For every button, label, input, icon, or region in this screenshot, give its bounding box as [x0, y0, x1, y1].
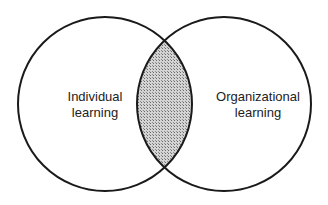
individual-label-line1: Individual	[50, 89, 140, 105]
organizational-learning-label: Organizational learning	[203, 89, 313, 121]
individual-learning-label: Individual learning	[50, 89, 140, 121]
organizational-label-line1: Organizational	[203, 89, 313, 105]
individual-label-line2: learning	[50, 105, 140, 121]
organizational-label-line2: learning	[203, 105, 313, 121]
